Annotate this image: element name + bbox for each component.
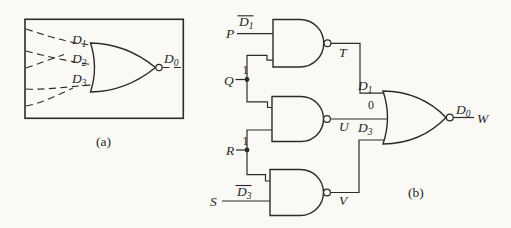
dashed-fan-line-5 — [26, 88, 73, 106]
nor-gate-a — [91, 43, 156, 92]
wire-r-up — [247, 130, 272, 150]
final-input-label-0: 0 — [368, 98, 374, 112]
figure-b: P Q R S D1 1 1 D3 T U V D1 0 D3 D0 W (b) — [210, 14, 490, 216]
gate-output-label-t: T — [339, 45, 348, 60]
nand-gate-u — [272, 97, 324, 142]
inverter-bubble-u — [324, 116, 331, 123]
wire-q-up — [247, 55, 273, 79]
input-label-a-3: D3 — [71, 71, 87, 88]
final-output-label-w: W — [477, 111, 490, 126]
wire-r-down — [247, 150, 270, 181]
junction-dot-r — [245, 148, 250, 153]
annotation-q-value: 1 — [243, 63, 249, 77]
final-output-label-d0: D0 — [455, 102, 471, 119]
input-label-s: S — [210, 194, 217, 209]
input-label-a-1: D1 — [71, 32, 87, 49]
dashed-fan-line-3 — [26, 55, 64, 69]
nor-gate-w — [383, 91, 446, 144]
input-label-a-2: D2 — [71, 51, 87, 68]
wire-v-route — [331, 140, 385, 193]
final-input-label-d3: D3 — [357, 120, 373, 137]
annotation-not-d3: D3 — [236, 184, 252, 201]
output-label-a: D0 — [163, 51, 179, 68]
annotation-not-d1: D1 — [238, 14, 254, 31]
figure-a: D1 D2 D3 D0 (a) — [25, 19, 183, 149]
inverter-bubble-w — [446, 114, 453, 121]
input-label-r: R — [225, 143, 235, 158]
nand-gate-t — [273, 20, 324, 68]
inverter-bubble-v — [324, 189, 331, 196]
annotation-r-value: 1 — [243, 134, 249, 148]
caption-b: (b) — [408, 185, 424, 200]
nand-gate-v — [270, 170, 323, 216]
inverter-bubble-a — [156, 64, 162, 70]
logic-circuit-figure: D1 D2 D3 D0 (a) P Q R — [0, 0, 511, 228]
gate-output-label-v: V — [339, 193, 349, 208]
input-label-p: P — [225, 26, 234, 41]
inverter-bubble-t — [324, 40, 331, 47]
junction-dot-q — [245, 77, 250, 82]
final-input-label-d1: D1 — [357, 78, 373, 95]
gate-output-label-u: U — [339, 119, 350, 134]
input-label-q: Q — [224, 73, 234, 88]
wire-q-down — [247, 80, 272, 108]
caption-a: (a) — [96, 134, 111, 149]
